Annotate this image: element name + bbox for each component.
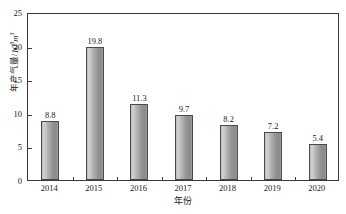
y-axis-tick-label: 5 [0,143,22,152]
bar[interactable] [175,115,193,180]
bar[interactable] [41,121,59,180]
bar-group: 8.8 [28,14,73,180]
bar[interactable] [220,125,238,180]
bar-value-label: 8.8 [28,111,72,120]
x-axis-tick-label: 2017 [161,183,206,193]
y-axis-tick-label: 15 [0,76,22,85]
plot-area: 8.819.811.39.78.27.25.4 [27,13,339,181]
bar-group: 7.2 [251,14,296,180]
x-axis-tick-label: 2018 [205,183,250,193]
bar-value-label: 8.2 [207,115,251,124]
x-axis-tick-label: 2015 [72,183,117,193]
x-axis-tick-labels: 2014201520162017201820192020 [27,183,339,197]
y-axis-tick-label: 25 [0,9,22,18]
x-axis-tick-label: 2016 [116,183,161,193]
bar-group: 19.8 [73,14,118,180]
bar[interactable] [130,104,148,180]
bar-group: 9.7 [162,14,207,180]
y-axis-tick-label: 0 [0,177,22,186]
bar-value-label: 7.2 [251,122,295,131]
bar-value-label: 5.4 [296,134,340,143]
bar[interactable] [86,47,104,180]
bar-value-label: 19.8 [73,37,117,46]
bar[interactable] [309,144,327,180]
bar-value-label: 9.7 [162,105,206,114]
x-axis-tick-label: 2019 [250,183,295,193]
bar-group: 5.4 [295,14,340,180]
y-axis-tick-label: 20 [0,43,22,52]
y-axis-tick-label: 10 [0,110,22,119]
x-axis-label: 年份 [27,196,339,207]
bar-group: 8.2 [206,14,251,180]
y-axis-tick-labels: 0510152025 [0,0,22,214]
chart-figure: 年产气量/108m3 0510152025 8.819.811.39.78.27… [0,0,346,214]
bar[interactable] [264,132,282,180]
bar-value-label: 11.3 [117,94,161,103]
x-axis-tick-label: 2014 [27,183,72,193]
x-axis-tick-label: 2020 [294,183,339,193]
bar-group: 11.3 [117,14,162,180]
